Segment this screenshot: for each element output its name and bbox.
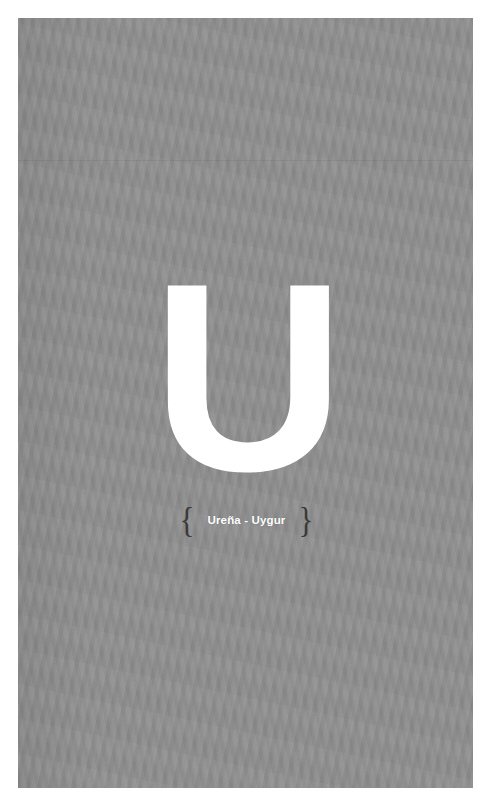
open-brace-icon: { <box>180 502 195 539</box>
section-letter: U <box>18 262 473 492</box>
divider-page: U { Ureña - Uygur } <box>18 18 473 788</box>
range-label: Ureña - Uygur <box>208 514 286 526</box>
letter-lockup: U { Ureña - Uygur } <box>18 262 473 535</box>
scan-seam-line <box>18 160 473 161</box>
scanned-sheet: U { Ureña - Uygur } <box>0 0 496 807</box>
close-brace-icon: } <box>299 502 314 539</box>
